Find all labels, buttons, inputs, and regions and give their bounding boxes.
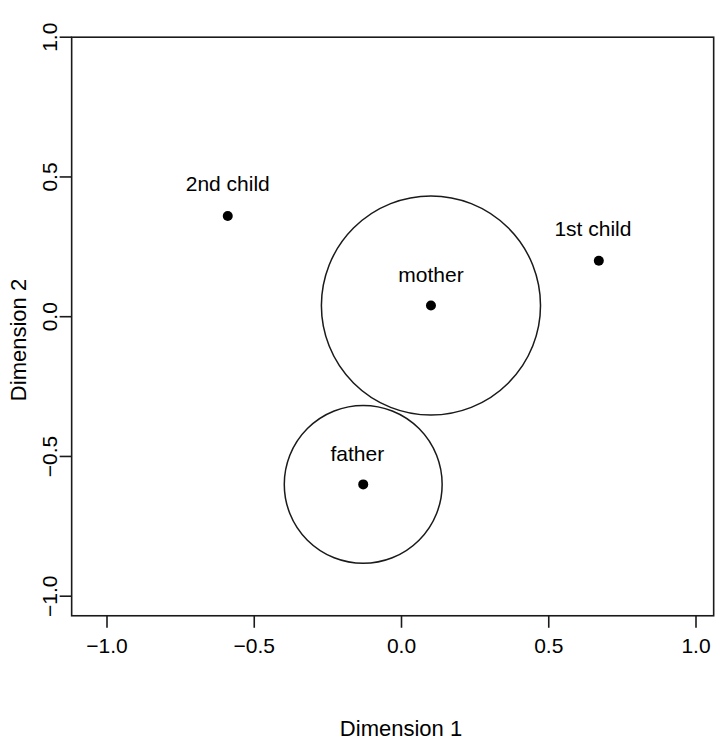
data-point-1 [594, 256, 604, 266]
x-axis-title: Dimension 1 [340, 716, 462, 741]
data-circles [284, 196, 540, 563]
x-tick-label-1: −0.5 [234, 634, 275, 657]
x-tick-label-4: 1.0 [681, 634, 710, 657]
data-point-label-3: father [330, 442, 384, 465]
x-tick-label-2: 0.0 [387, 634, 416, 657]
data-points [223, 211, 604, 489]
y-tick-label-3: 0.5 [38, 162, 61, 191]
axis-tick-labels: −1.0−0.50.00.51.0−1.0−0.50.00.51.0 [38, 23, 710, 657]
axis-ticks [60, 37, 696, 628]
data-point-3 [358, 479, 368, 489]
data-point-0 [223, 211, 233, 221]
y-tick-label-4: 1.0 [38, 23, 61, 52]
data-point-label-0: 2nd child [186, 172, 270, 195]
y-axis-title: Dimension 2 [6, 279, 31, 401]
plot-canvas: −1.0−0.50.00.51.0−1.0−0.50.00.51.0 2nd c… [0, 0, 726, 745]
y-tick-label-1: −0.5 [38, 436, 61, 477]
x-tick-label-0: −1.0 [86, 634, 127, 657]
data-point-2 [426, 301, 436, 311]
plot-frame [72, 37, 714, 616]
y-tick-label-2: 0.0 [38, 302, 61, 331]
plot-border [72, 37, 714, 616]
scatter-plot-figure: −1.0−0.50.00.51.0−1.0−0.50.00.51.0 2nd c… [0, 0, 726, 745]
data-point-label-2: mother [398, 263, 463, 286]
data-point-label-1: 1st child [554, 217, 631, 240]
y-tick-label-0: −1.0 [38, 575, 61, 616]
x-tick-label-3: 0.5 [534, 634, 563, 657]
data-point-labels: 2nd child1st childmotherfather [186, 172, 632, 465]
